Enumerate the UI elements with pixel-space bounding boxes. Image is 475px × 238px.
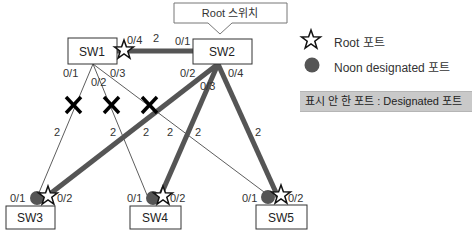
legend-circle-icon [305,58,320,73]
svg-text:0/2: 0/2 [91,76,106,88]
svg-text:0/2: 0/2 [170,192,185,204]
svg-text:2: 2 [143,126,149,138]
switch-sw4: SW4 [130,206,181,229]
legend-star-icon [302,30,321,48]
svg-text:0/1: 0/1 [10,192,25,204]
root-switch-callout-label: Root 스위치 [202,7,258,19]
blocked-marks [66,97,157,113]
block-x-icon [142,97,157,113]
svg-text:0/1: 0/1 [242,192,257,204]
svg-text:SW2: SW2 [209,45,235,59]
svg-text:SW3: SW3 [17,211,43,225]
svg-text:2: 2 [195,126,201,138]
link-sw2-sw5 [218,64,278,197]
root-ports [39,40,291,204]
svg-text:2: 2 [153,32,159,44]
svg-text:0/4: 0/4 [127,34,142,46]
svg-text:0/3: 0/3 [200,80,215,92]
svg-text:0/2: 0/2 [57,192,72,204]
svg-text:SW1: SW1 [79,45,105,59]
stp-topology-diagram: Root 스위치 SW1 SW2 SW3 [0,0,475,238]
block-x-icon [104,97,119,113]
legend-icons [302,30,321,73]
port-labels: 0/4 0/1 0/2 0/3 0/1 0/2 0/3 0/4 0/1 0/2 … [10,34,303,204]
switch-sw5: SW5 [256,205,307,229]
svg-text:0/4: 0/4 [228,67,243,79]
svg-text:0/3: 0/3 [110,67,125,79]
svg-text:0/1: 0/1 [63,67,78,79]
svg-text:0/1: 0/1 [175,35,190,47]
legend-designated-note: 표시 안 한 포트 : Designated 포트 [300,91,472,112]
svg-text:0/1: 0/1 [127,192,142,204]
link-sw1-sw3 [38,64,93,195]
switch-sw1: SW1 [68,38,117,64]
svg-text:0/2: 0/2 [288,192,303,204]
svg-text:2: 2 [255,126,261,138]
root-switch-callout: Root 스위치 [174,3,287,34]
svg-text:2: 2 [167,126,173,138]
link-sw2-sw3 [46,64,218,197]
link-sw1-sw5 [93,64,268,195]
legend-non-designated-label: Noon designated 포트 [334,58,450,75]
svg-text:SW5: SW5 [268,211,294,225]
switch-sw3: SW3 [6,206,55,229]
svg-text:2: 2 [54,126,60,138]
svg-text:2: 2 [110,126,116,138]
svg-text:0/2: 0/2 [180,67,195,79]
switch-sw2: SW2 [193,39,252,64]
legend-root-port-label: Root 포트 [334,33,385,50]
svg-text:SW4: SW4 [142,211,168,225]
